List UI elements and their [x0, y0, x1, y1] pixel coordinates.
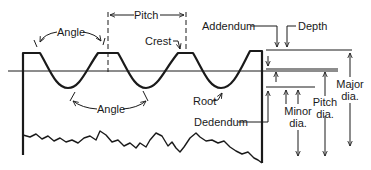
pitch-label: Pitch: [134, 9, 158, 21]
major-dia-label-1: Major: [332, 78, 368, 90]
crest-label: Crest: [145, 35, 171, 47]
angle-top-label: Angle: [57, 26, 85, 38]
dedendum-label: Dedendum: [194, 116, 248, 128]
pitch-dia-label-2: dia.: [308, 108, 342, 120]
depth-label: Depth: [298, 20, 327, 32]
addendum-label: Addendum: [202, 20, 255, 32]
root-label: Root: [193, 95, 216, 107]
thread-profile: [23, 51, 262, 163]
break-line: [23, 131, 262, 163]
major-dia-label-2: dia.: [332, 90, 368, 102]
angle-bottom-label: Angle: [97, 103, 125, 115]
